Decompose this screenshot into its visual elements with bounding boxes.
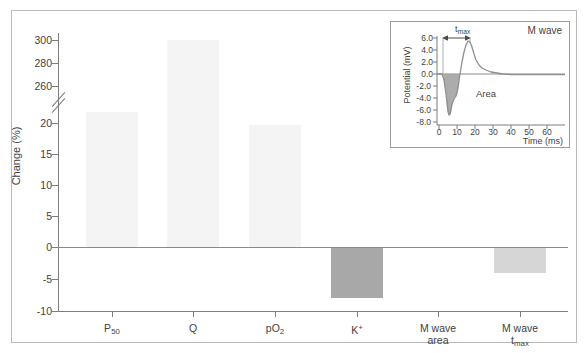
y-tick-mark [52,63,58,64]
x-tick-label-p50: P50 [69,322,155,338]
y-tick-mark [52,247,58,248]
inset-y-tick-marks [433,38,437,122]
x-tick-mark [438,311,439,317]
bar-po2[interactable] [249,125,301,247]
x-tick-mark [275,311,276,317]
bar-k-plus[interactable] [331,248,383,298]
y-tick-label: 20 [10,118,52,128]
x-tick-mark [520,311,521,317]
x-tick-mark [193,311,194,317]
x-tick-label-q: Q [150,322,236,334]
y-tick-mark [52,216,58,217]
bar-q[interactable] [167,40,219,247]
y-tick-label: 5 [10,211,52,221]
x-axis-line [58,311,568,312]
y-tick-mark [52,40,58,41]
inset-m-wave-chart: M wave Potential (mV) Time (ms) 6.0 4.0 … [390,21,570,148]
x-tick-mark [357,311,358,317]
y-tick-label: 300 [10,35,52,45]
bar-m-wave-tmax[interactable] [494,248,546,273]
x-tick-label-m-wave-area: M wavearea [395,322,481,346]
y-tick-label: 280 [10,58,52,68]
y-tick-mark [52,185,58,186]
x-tick-label-k-plus: K+ [314,322,400,336]
y-tick-mark [52,279,58,280]
x-tick-label-po2: pO2 [232,322,318,338]
y-tick-mark [52,123,58,124]
y-tick-label: -5 [10,274,52,284]
inset-x-tick-marks [439,125,547,129]
inset-tmax-arrow [442,35,471,74]
zero-baseline [58,247,568,248]
y-tick-mark [52,311,58,312]
y-axis-line [58,33,59,312]
y-tick-label: -10 [10,306,52,316]
axis-break-marks [48,92,70,114]
x-tick-mark [112,311,113,317]
y-tick-label: 260 [10,81,52,91]
y-tick-mark [52,154,58,155]
x-tick-label-m-wave-tmax: M wavetmax [477,322,563,350]
inset-waveform-svg [391,22,571,149]
bar-p50[interactable] [86,112,138,247]
y-tick-mark [52,86,58,87]
y-tick-label: 10 [10,180,52,190]
y-tick-label: 15 [10,149,52,159]
y-tick-label: 0 [10,242,52,252]
